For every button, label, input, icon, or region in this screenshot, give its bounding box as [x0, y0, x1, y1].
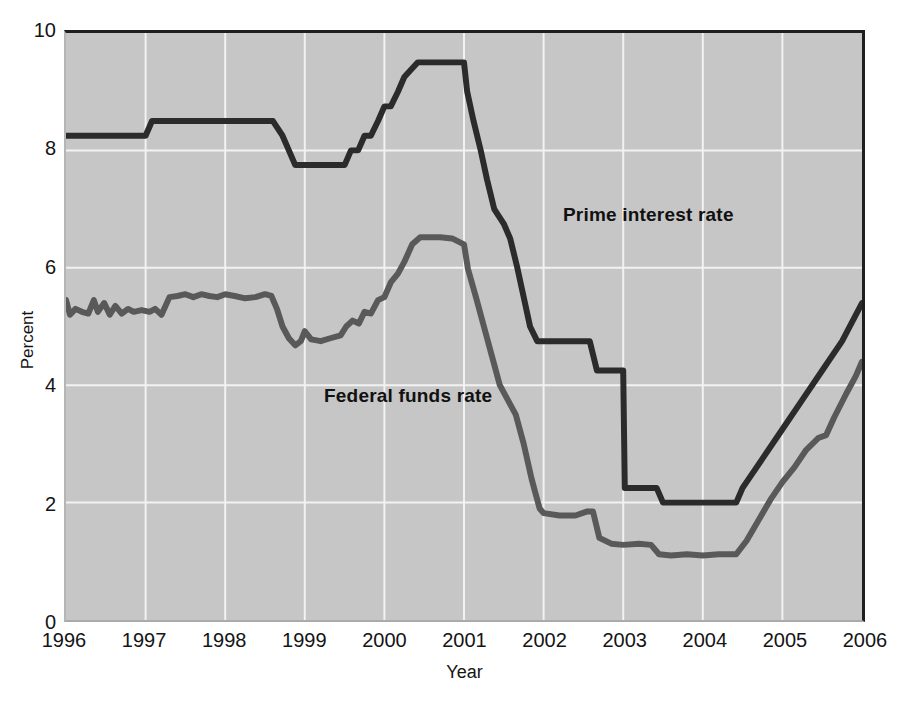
x-axis-title: Year: [64, 662, 865, 683]
x-tick-2005: 2005: [745, 628, 825, 652]
x-tick-2004: 2004: [665, 628, 745, 652]
y-tick-2: 2: [10, 494, 56, 514]
plot-area: Prime interest rate Federal funds rate: [64, 30, 865, 622]
x-tick-2000: 2000: [344, 628, 424, 652]
federal-funds-rate-annotation: Federal funds rate: [324, 385, 492, 407]
x-tick-1996: 1996: [24, 628, 104, 652]
y-tick-6: 6: [10, 257, 56, 277]
interest-rate-line-chart: 10 8 6 4 2 0 Percent Prime interest rate…: [0, 0, 900, 703]
y-tick-8: 8: [10, 138, 56, 158]
x-tick-2002: 2002: [505, 628, 585, 652]
series-line: [66, 62, 862, 502]
x-tick-2001: 2001: [425, 628, 505, 652]
x-tick-1998: 1998: [184, 628, 264, 652]
prime-rate-annotation: Prime interest rate: [563, 204, 734, 226]
x-axis-tick-labels: 1996199719981999200020012002200320042005…: [64, 628, 865, 658]
y-axis-title: Percent: [18, 290, 38, 390]
data-series-lines: [66, 33, 862, 620]
y-tick-10: 10: [10, 20, 56, 40]
x-tick-1999: 1999: [264, 628, 344, 652]
x-tick-2003: 2003: [585, 628, 665, 652]
x-tick-2006: 2006: [825, 628, 900, 652]
x-tick-1997: 1997: [104, 628, 184, 652]
